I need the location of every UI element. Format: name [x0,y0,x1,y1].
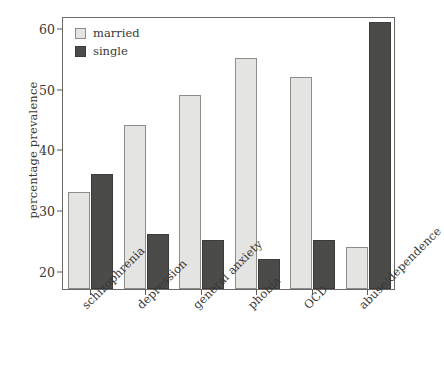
x-tick-mark [90,290,91,295]
y-tick-label: 30 [39,204,55,219]
y-tick-label: 50 [39,82,55,97]
x-tick-mark [367,290,368,295]
x-tick-mark [312,290,313,295]
bar-married [346,247,368,289]
legend-label-single: single [93,44,128,58]
bar-single [369,22,391,289]
legend-item-single: single [75,44,140,58]
plot-area [63,18,394,289]
single-swatch-icon [75,46,86,57]
x-tick-mark [145,290,146,295]
bar-group [63,18,396,289]
plot-frame: married single [62,17,395,290]
legend-item-married: married [75,26,140,40]
y-tick-label: 60 [39,22,55,37]
y-axis-ticks: 2030405060 [30,0,62,380]
x-axis-ticks [62,290,395,296]
legend-label-married: married [93,26,140,40]
legend: married single [75,26,140,58]
x-tick-mark [201,290,202,295]
x-tick-mark [256,290,257,295]
married-swatch-icon [75,28,86,39]
y-tick-label: 40 [39,143,55,158]
y-tick-label: 20 [39,264,55,279]
